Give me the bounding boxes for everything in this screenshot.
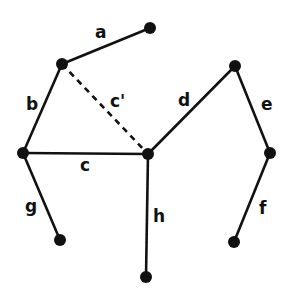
edge-label: a xyxy=(95,24,106,41)
graph-node xyxy=(229,60,241,72)
edge-c-prime xyxy=(62,64,148,154)
graph-node xyxy=(140,271,152,283)
edge-label: d xyxy=(178,92,190,109)
edge-label: b xyxy=(26,96,38,113)
edge-label: g xyxy=(25,198,37,215)
graph-node xyxy=(144,22,156,34)
graph-node xyxy=(17,147,29,159)
graph-node xyxy=(142,148,154,160)
edge-d xyxy=(148,66,235,154)
graph-diagram: abc'cdefgh xyxy=(0,0,293,295)
edge-label: f xyxy=(259,200,266,217)
edge-label: c xyxy=(80,157,90,174)
edge-c xyxy=(23,153,148,154)
edge-label: h xyxy=(153,208,165,225)
graph-node xyxy=(56,58,68,70)
graph-node xyxy=(264,147,276,159)
graph-edges-and-nodes xyxy=(0,0,293,295)
graph-node xyxy=(228,236,240,248)
edge-label: c' xyxy=(110,93,125,110)
graph-node xyxy=(54,234,66,246)
edge-h xyxy=(146,154,148,277)
edge-label: e xyxy=(261,96,273,113)
